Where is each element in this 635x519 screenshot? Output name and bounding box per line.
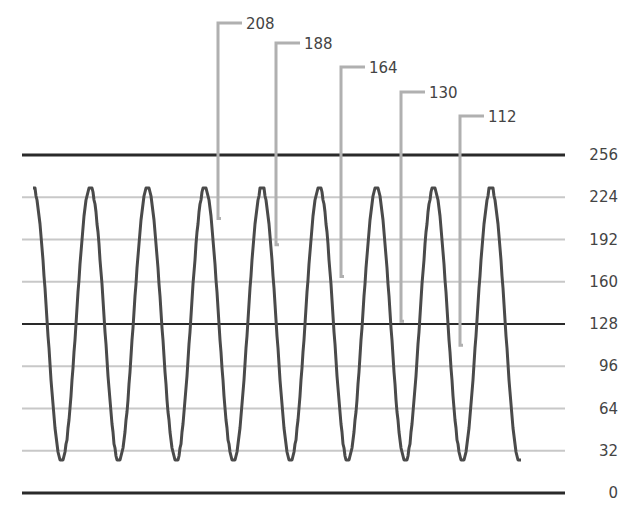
y-tick-label: 0 bbox=[608, 484, 618, 502]
annotation-label: 188 bbox=[304, 35, 333, 53]
waveform-chart: 0326496128160192224256 208188164130112 bbox=[0, 0, 635, 519]
annotation-leader-line bbox=[460, 116, 484, 345]
annotation-leader-line bbox=[218, 23, 242, 218]
y-tick-label: 224 bbox=[589, 188, 618, 206]
annotation-leaders bbox=[218, 23, 484, 345]
y-tick-label: 128 bbox=[589, 315, 618, 333]
annotation-label: 208 bbox=[246, 15, 275, 33]
annotation-label: 164 bbox=[369, 59, 398, 77]
y-tick-label: 160 bbox=[589, 273, 618, 291]
y-tick-label: 32 bbox=[599, 442, 618, 460]
annotation-label: 112 bbox=[488, 108, 517, 126]
y-tick-label: 96 bbox=[599, 357, 618, 375]
annotation-leader-line bbox=[341, 67, 365, 276]
y-tick-label: 256 bbox=[589, 146, 618, 164]
annotation-leader-line bbox=[276, 43, 300, 245]
annotation-labels: 208188164130112 bbox=[246, 15, 517, 126]
y-tick-label: 64 bbox=[599, 400, 618, 418]
annotation-label: 130 bbox=[429, 84, 458, 102]
y-axis-labels: 0326496128160192224256 bbox=[589, 146, 618, 502]
y-tick-label: 192 bbox=[589, 231, 618, 249]
